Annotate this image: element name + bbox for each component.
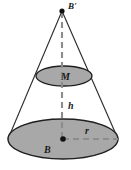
mid-section-label: M [61,72,70,82]
base-label: B [44,145,51,155]
apex-label: B' [68,2,77,11]
radius-label: r [85,126,89,136]
height-label: h [68,101,74,111]
cone-figure-svg [0,0,131,170]
base-center-dot [60,136,66,142]
cone-diagram: B' M h r B [0,0,131,170]
apex-vertex-dot [59,8,64,13]
